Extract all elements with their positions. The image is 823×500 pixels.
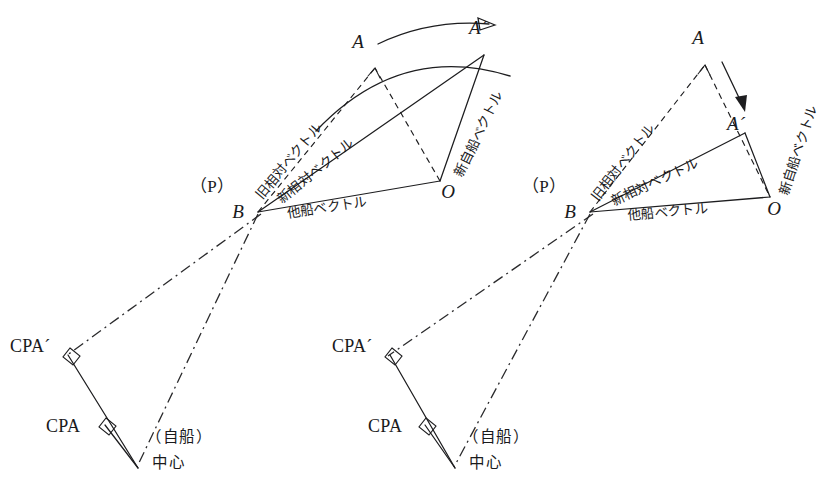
right-label-point-O: O xyxy=(767,198,781,219)
left-cpa-prime-right-angle-mark xyxy=(63,348,80,365)
right-new-own-ship-vector-line xyxy=(745,133,770,197)
left-label-point-B: B xyxy=(232,201,244,222)
left-label-point-A: A xyxy=(350,31,364,52)
left-label-cpa: CPA xyxy=(46,416,80,436)
left-label-own-ship-center: 中心 xyxy=(152,454,185,472)
left-label-point-A-prime: A´ xyxy=(467,17,488,38)
left-label-other-ship-vector: 他船ベクトル xyxy=(286,193,368,221)
vector-triangle-diagram: A A´ B O （P） CPA´ CPA （自船） 中心 旧相対ベクトル 新相… xyxy=(0,0,823,500)
right-cpa-segment xyxy=(425,425,455,468)
figure-canvas: A A´ B O （P） CPA´ CPA （自船） 中心 旧相対ベクトル 新相… xyxy=(0,0,823,500)
left-old-relative-vector-line xyxy=(258,68,375,212)
right-panel: A A´ B O （P） CPA´ CPA （自船） 中心 旧相対ベクトル 新相… xyxy=(332,27,820,472)
left-cpa-prime-dashdot-line xyxy=(66,214,261,356)
left-label-point-O: O xyxy=(441,181,455,202)
right-label-other-ship-vector: 他船ベクトル xyxy=(627,200,708,223)
right-label-point-A-prime: A´ xyxy=(725,113,746,134)
right-maneuver-arrowhead xyxy=(735,95,747,112)
right-cpa-prime-dashdot-line xyxy=(388,214,593,356)
left-label-new-own-ship-vector: 新自船ベクトル xyxy=(450,88,506,179)
left-old-relative-vector-tick xyxy=(368,68,380,78)
left-label-point-P: （P） xyxy=(190,177,233,196)
left-panel: A A´ B O （P） CPA´ CPA （自船） 中心 旧相対ベクトル 新相… xyxy=(10,17,510,472)
right-label-cpa-prime: CPA´ xyxy=(332,336,373,356)
right-label-own-ship-paren: （自船） xyxy=(463,428,529,446)
right-old-relative-vector-tick xyxy=(698,65,710,75)
left-cpa-prime-segment xyxy=(68,355,138,468)
right-label-own-ship-center: 中心 xyxy=(469,454,502,472)
left-label-own-ship-paren: （自船） xyxy=(146,428,212,446)
right-label-point-A: A xyxy=(690,27,704,48)
left-cpa-segment xyxy=(105,425,138,468)
left-cpa-right-angle-mark xyxy=(99,418,116,435)
right-cpa-prime-right-angle-mark xyxy=(385,348,402,365)
right-label-new-own-ship-vector: 新自船ベクトル xyxy=(776,103,820,197)
right-cpa-prime-segment xyxy=(390,355,455,468)
left-label-cpa-prime: CPA´ xyxy=(10,336,51,356)
right-label-point-B: B xyxy=(564,201,576,222)
right-label-point-P: （P） xyxy=(522,177,565,196)
right-label-cpa: CPA xyxy=(368,416,402,436)
